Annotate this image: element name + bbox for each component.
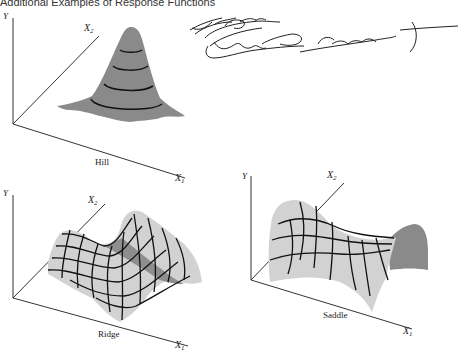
ridge-caption: Ridge xyxy=(98,329,120,339)
hill-surface xyxy=(57,27,185,122)
ridge-x2-label: X2 xyxy=(87,194,98,207)
hill-x1-axis xyxy=(13,124,185,178)
saddle-caption: Saddle xyxy=(323,310,348,320)
saddle-x2-label: X2 xyxy=(326,169,337,182)
saddle-end-shade xyxy=(388,224,428,270)
response-functions-figure: Y X2 X1 Hill xyxy=(0,0,461,355)
saddle-x1-axis xyxy=(251,280,412,329)
hill-x1-label: X1 xyxy=(174,172,185,185)
ridge-y-label: Y xyxy=(3,188,9,198)
hill-x2-label: X2 xyxy=(83,22,94,35)
handwritten-annotation xyxy=(190,18,458,58)
ridge-panel: Y X2 X1 Ridge xyxy=(3,188,202,352)
hill-y-label: Y xyxy=(3,11,9,21)
hill-caption: Hill xyxy=(95,157,110,167)
saddle-panel: Y X2 X1 Saddle xyxy=(242,169,428,338)
hill-panel: Y X2 X1 Hill xyxy=(3,11,185,185)
ridge-x1-label: X1 xyxy=(174,339,185,352)
saddle-x1-label: X1 xyxy=(402,325,413,338)
ridge-surface xyxy=(48,210,202,322)
saddle-y-label: Y xyxy=(242,171,248,181)
